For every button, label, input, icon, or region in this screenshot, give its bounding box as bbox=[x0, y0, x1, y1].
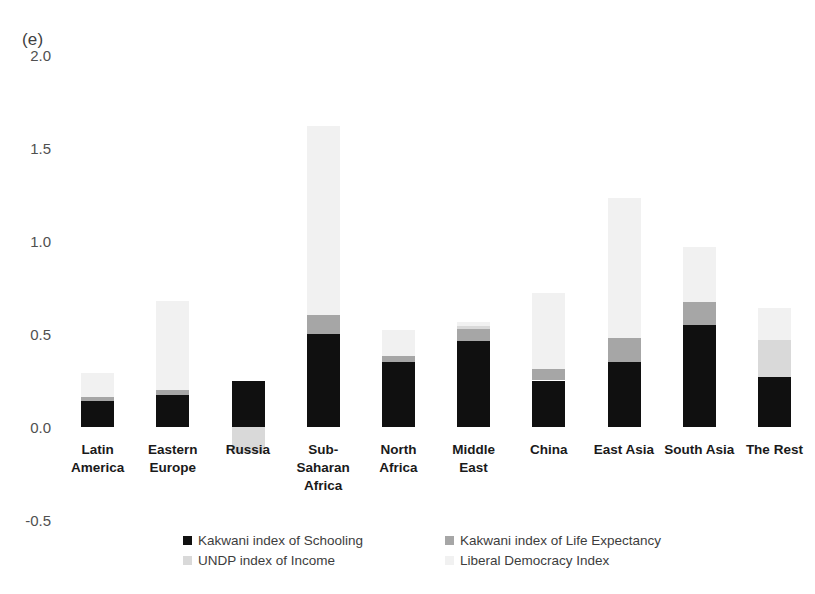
bar-segment[interactable] bbox=[156, 395, 189, 427]
legend-item[interactable]: Kakwani index of Schooling bbox=[183, 533, 445, 548]
bar-segment[interactable] bbox=[382, 330, 415, 356]
bar-segment[interactable] bbox=[683, 247, 716, 303]
bar-segment[interactable] bbox=[758, 377, 791, 427]
bar-segment[interactable] bbox=[532, 293, 565, 369]
y-tick-1-5: 1.5 bbox=[30, 140, 51, 157]
bar-segment[interactable] bbox=[758, 308, 791, 340]
bar-group[interactable] bbox=[232, 55, 265, 435]
bar-segment[interactable] bbox=[532, 381, 565, 428]
category-label: China bbox=[511, 441, 586, 459]
bar-group[interactable] bbox=[81, 55, 114, 435]
bar-segment[interactable] bbox=[457, 329, 490, 340]
legend-label: UNDP index of Income bbox=[198, 553, 335, 568]
legend-label: Kakwani index of Life Expectancy bbox=[460, 533, 661, 548]
bar-segment[interactable] bbox=[81, 373, 114, 397]
legend-item[interactable]: Kakwani index of Life Expectancy bbox=[445, 533, 707, 548]
category-label: Eastern Europe bbox=[135, 441, 210, 477]
chart-figure: (e) 2.01.51.00.50.0-0.5 Latin AmericaEas… bbox=[0, 0, 815, 594]
bar-segment[interactable] bbox=[307, 126, 340, 316]
bar-group[interactable] bbox=[457, 55, 490, 435]
legend-swatch-icon bbox=[445, 536, 454, 545]
bar-series-container bbox=[60, 55, 812, 435]
legend-label: Kakwani index of Schooling bbox=[198, 533, 363, 548]
category-label: South Asia bbox=[662, 441, 737, 459]
legend-swatch-icon bbox=[183, 556, 192, 565]
y-tick--0-5: -0.5 bbox=[25, 512, 51, 529]
category-label: The Rest bbox=[737, 441, 812, 459]
bar-segment[interactable] bbox=[457, 322, 490, 326]
bar-group[interactable] bbox=[608, 55, 641, 435]
bar-segment[interactable] bbox=[683, 302, 716, 324]
legend-swatch-icon bbox=[445, 556, 454, 565]
category-label: Latin America bbox=[60, 441, 135, 477]
bar-group[interactable] bbox=[683, 55, 716, 435]
bar-group[interactable] bbox=[532, 55, 565, 435]
bar-group[interactable] bbox=[382, 55, 415, 435]
bar-segment[interactable] bbox=[608, 362, 641, 427]
bar-group[interactable] bbox=[307, 55, 340, 435]
bar-segment[interactable] bbox=[307, 334, 340, 427]
bar-segment[interactable] bbox=[382, 362, 415, 427]
bar-segment[interactable] bbox=[758, 340, 791, 377]
bar-segment[interactable] bbox=[156, 301, 189, 390]
category-label: Russia bbox=[210, 441, 285, 459]
legend-item[interactable]: Liberal Democracy Index bbox=[445, 553, 707, 568]
bar-segment[interactable] bbox=[457, 341, 490, 427]
bar-segment[interactable] bbox=[156, 390, 189, 396]
category-label: East Asia bbox=[586, 441, 661, 459]
bar-segment[interactable] bbox=[81, 397, 114, 401]
bar-segment[interactable] bbox=[457, 326, 490, 330]
category-label: Sub- Saharan Africa bbox=[286, 441, 361, 494]
legend-item[interactable]: UNDP index of Income bbox=[183, 553, 445, 568]
bar-segment[interactable] bbox=[608, 338, 641, 362]
bar-segment[interactable] bbox=[382, 356, 415, 362]
bar-segment[interactable] bbox=[608, 198, 641, 338]
bar-segment[interactable] bbox=[683, 325, 716, 427]
chart-legend: Kakwani index of SchoolingKakwani index … bbox=[183, 533, 683, 568]
y-tick-2-0: 2.0 bbox=[30, 47, 51, 64]
y-tick-1-0: 1.0 bbox=[30, 233, 51, 250]
bar-segment[interactable] bbox=[232, 381, 265, 428]
legend-swatch-icon bbox=[183, 536, 192, 545]
legend-label: Liberal Democracy Index bbox=[460, 553, 609, 568]
y-tick-0-5: 0.5 bbox=[30, 326, 51, 343]
bar-group[interactable] bbox=[156, 55, 189, 435]
bar-segment[interactable] bbox=[307, 315, 340, 334]
category-label: North Africa bbox=[361, 441, 436, 477]
bar-segment[interactable] bbox=[532, 369, 565, 380]
category-label: Middle East bbox=[436, 441, 511, 477]
bar-group[interactable] bbox=[758, 55, 791, 435]
bar-segment[interactable] bbox=[81, 401, 114, 427]
y-tick-0-0: 0.0 bbox=[30, 419, 51, 436]
plot-area: 2.01.51.00.50.0-0.5 bbox=[60, 55, 812, 435]
